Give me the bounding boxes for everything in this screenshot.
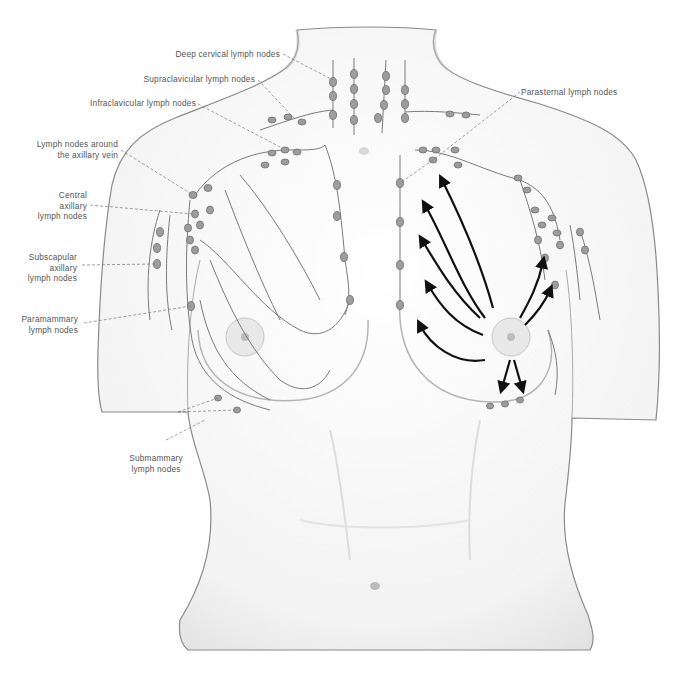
label-infraclavicular-lymph-nodes: Infraclavicular lymph nodes bbox=[36, 98, 196, 109]
lymphatic-drainage-illustration: Deep cervical lymph nodes Supraclavicula… bbox=[0, 0, 675, 678]
label-paramammary-lymph-nodes: Paramammary lymph nodes bbox=[0, 314, 78, 335]
label-axillary-vein-lymph-nodes: Lymph nodes around the axillary vein bbox=[0, 139, 118, 160]
label-deep-cervical-lymph-nodes: Deep cervical lymph nodes bbox=[120, 49, 280, 60]
left-nipple bbox=[507, 333, 515, 341]
paramammary-node bbox=[188, 302, 195, 311]
label-central-axillary-lymph-nodes: Central axillary lymph nodes bbox=[0, 190, 87, 222]
label-submammary-lymph-nodes: Submammary lymph nodes bbox=[116, 453, 196, 474]
label-subscapular-axillary-lymph-nodes: Subscapular axillary lymph nodes bbox=[0, 252, 77, 284]
navel bbox=[370, 582, 380, 590]
label-supraclavicular-lymph-nodes: Supraclavicular lymph nodes bbox=[95, 74, 255, 85]
label-parasternal-lymph-nodes: Parasternal lymph nodes bbox=[521, 87, 617, 98]
